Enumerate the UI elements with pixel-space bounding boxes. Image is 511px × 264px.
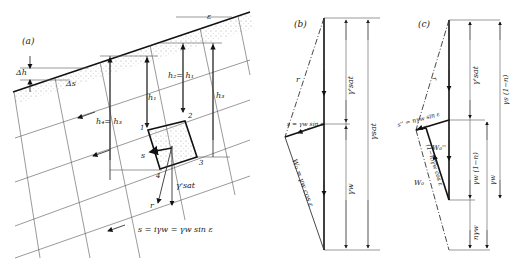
h2-h1-label: h₂= h₁: [168, 71, 194, 80]
s-label: s: [141, 151, 145, 160]
panel-a-label: (a): [22, 36, 35, 46]
r-label: r: [150, 201, 155, 210]
b-gamma-w: γw: [346, 183, 355, 195]
flow-line: [15, 140, 250, 226]
b-r-label: r: [296, 75, 301, 84]
delta-h-label: Δh: [15, 68, 27, 77]
h1-label: h₁: [148, 93, 156, 102]
gamma-sat-prime-label: γ'sat: [176, 181, 196, 190]
equipotential-line: [100, 62, 140, 258]
equipotential-line: [55, 78, 90, 258]
panel-c-label: (c): [418, 19, 431, 29]
b-gamma-sat-prime: γ'sat: [346, 75, 355, 95]
c-gamma-sat-prime: γ'sat: [471, 65, 480, 85]
h3-label: h₃: [216, 91, 224, 100]
flow-line: [15, 176, 250, 258]
panel-b: [285, 18, 380, 250]
corner-1-label: 1: [140, 124, 144, 132]
c-gamma-s-label: γs (1−n): [502, 74, 510, 105]
panel-b-label: (b): [294, 19, 307, 29]
panel-a: [13, 12, 255, 258]
equipotential-line: [200, 28, 235, 195]
h4-h3-label: h₄= h₃: [96, 117, 122, 126]
seepage-force-diagram: (a) Δh Δs ε h₂= h₁ h₁ h₃ h₄= h₃ 1 2 3 4 …: [0, 0, 511, 264]
c-s-formula: s'' = nγw sin ε: [396, 110, 440, 129]
corner-2-label: 2: [187, 112, 193, 120]
equipotential-line: [14, 92, 40, 258]
corner-3-label: 3: [199, 159, 204, 167]
epsilon-label: ε: [207, 12, 211, 21]
c-w0-label: W₀: [414, 179, 424, 187]
b-gamma-sat: γsat: [369, 122, 378, 140]
delta-s-label: Δs: [65, 79, 76, 88]
panel-c: [416, 20, 500, 250]
corner-4-label: 4: [155, 172, 160, 180]
b-w0-formula: W₀ = γw cos ε: [290, 158, 315, 208]
seepage-formula: s = iγw = γw sin ε: [138, 225, 213, 234]
c-n-gamma-w-label: nγw: [472, 225, 480, 240]
c-gamma-w-1-n-label: γw (1−n): [472, 152, 480, 185]
c-r-label: r: [430, 76, 439, 82]
c-gamma-w-label: γw: [489, 175, 497, 185]
b-s-formula: s = γw sin ε: [287, 120, 324, 128]
